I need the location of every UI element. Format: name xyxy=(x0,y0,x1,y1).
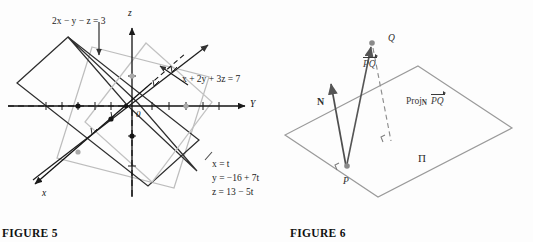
axis-x-label: x xyxy=(42,188,46,198)
right-angle-mark-projection xyxy=(381,135,385,142)
parametric-equations-block: x = t y = −16 + 7t z = 13 − 5t xyxy=(212,158,259,199)
plane-dark-outline xyxy=(18,37,197,183)
origin-label: 0 xyxy=(136,109,141,119)
parametric-line-x: x = t xyxy=(212,158,259,172)
leader-parametric xyxy=(205,152,212,160)
plane-light-rhombus xyxy=(85,43,212,182)
projection-subscript: N xyxy=(422,99,427,107)
figure-6-panel: Q P N PQ ProjNPQ Π FIGURE 6 xyxy=(266,0,533,242)
axis-y-label: Y xyxy=(250,99,255,109)
vector-pq-label: PQ xyxy=(363,58,376,69)
point-q-label: Q xyxy=(388,33,395,43)
plane-light-outline xyxy=(57,47,209,188)
vector-pq-label-text: PQ xyxy=(363,58,376,69)
plane-name-label: Π xyxy=(418,152,426,164)
point-q-marker xyxy=(369,40,375,46)
parametric-line-z: z = 13 − 5t xyxy=(212,186,259,200)
plane-parallelogram xyxy=(285,66,512,197)
parametric-line-y: y = −16 + 7t xyxy=(212,172,259,186)
projection-prefix: Proj xyxy=(406,96,422,106)
plane-dark-rhombus xyxy=(17,37,199,186)
point-p-label: P xyxy=(343,176,349,186)
intersection-line-tail xyxy=(33,176,38,180)
figure-6-caption: FIGURE 6 xyxy=(290,227,346,239)
vector-projection-label: ProjNPQ xyxy=(406,95,444,107)
vector-n xyxy=(331,84,346,166)
point-p-marker xyxy=(344,163,350,169)
figure-6-graphic xyxy=(266,0,533,218)
axis-z-label: z xyxy=(128,8,132,18)
figure-sheet: 2x − y − z = 3 x + 2y + 3z = 7 z Y x 0 x… xyxy=(0,0,533,242)
plane-light-equation-label: x + 2y + 3z = 7 xyxy=(182,73,240,86)
projection-vector-text: PQ xyxy=(431,95,444,106)
figure-5-caption: FIGURE 5 xyxy=(2,227,58,239)
plane-dark-equation-label: 2x − y − z = 3 xyxy=(52,15,106,28)
figure-5-panel: 2x − y − z = 3 x + 2y + 3z = 7 z Y x 0 x… xyxy=(0,0,266,242)
vector-n-label: N xyxy=(317,96,324,107)
